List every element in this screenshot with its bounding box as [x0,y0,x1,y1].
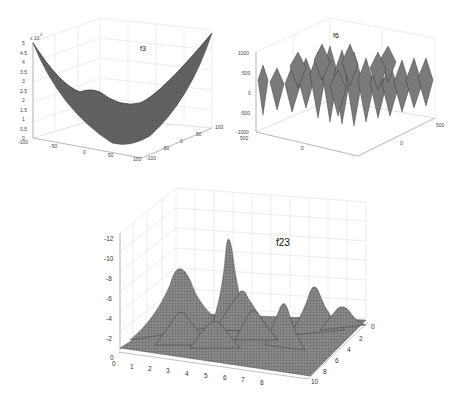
svg-text:6: 6 [335,357,339,364]
svg-text:-500: -500 [240,110,250,116]
svg-text:-100: -100 [18,139,28,145]
f23-surface-canvas: -12 -10 -8 -6 -4 -2 0 0 1 2 3 4 5 6 7 8 … [100,180,420,396]
svg-text:0: 0 [301,145,304,151]
svg-text:8: 8 [260,379,264,386]
svg-text:-4: -4 [106,315,112,322]
svg-text:5: 5 [22,40,25,46]
svg-text:100: 100 [215,124,224,130]
svg-text:5: 5 [204,372,208,379]
svg-text:3.5: 3.5 [20,69,27,75]
f3-surface-canvas: 5 4.5 4 3.5 3 2.5 2 1.5 1 0.5 0 x 10 4 -… [0,0,230,170]
svg-text:0: 0 [83,149,86,155]
f3-exponent-label: x 10 [30,35,40,41]
svg-text:2: 2 [148,365,152,372]
svg-text:2: 2 [359,335,363,342]
f6-surface-canvas: 1000 500 0 -500 -1000 500 0 0 500 [230,0,460,170]
svg-text:100: 100 [133,156,142,162]
f23-z-tick-labels: -12 -10 -8 -6 -4 -2 0 [104,235,114,361]
f6-y-tick-labels: 0 500 [400,122,445,146]
f23-title: f23 [276,237,290,248]
svg-text:0.5: 0.5 [20,126,27,132]
f6-title: f6 [333,32,339,39]
svg-text:0: 0 [400,140,403,146]
plot-f6: 1000 500 0 -500 -1000 500 0 0 500 f6 [230,0,460,170]
svg-text:50: 50 [108,152,114,158]
svg-text:4: 4 [22,59,25,65]
svg-text:1: 1 [22,116,25,122]
svg-text:7: 7 [241,376,245,383]
f3-title: f3 [140,45,146,52]
svg-text:-50: -50 [50,143,57,149]
svg-text:500: 500 [240,135,249,141]
svg-text:2.5: 2.5 [20,88,27,94]
plot-f3: 5 4.5 4 3.5 3 2.5 2 1.5 1 0.5 0 x 10 4 -… [0,0,230,170]
svg-text:-8: -8 [106,275,112,282]
svg-text:3: 3 [166,367,170,374]
svg-text:500: 500 [436,122,445,128]
svg-text:10: 10 [311,378,319,385]
f6-z-tick-labels: 1000 500 0 -500 -1000 [236,50,251,135]
svg-text:1.5: 1.5 [20,107,27,113]
svg-text:1: 1 [130,363,134,370]
svg-text:4: 4 [347,346,351,353]
svg-text:-10: -10 [104,255,114,262]
svg-text:8: 8 [323,368,327,375]
svg-text:-100: -100 [146,155,156,161]
svg-text:0: 0 [180,138,183,144]
svg-text:0: 0 [112,360,116,367]
svg-text:6: 6 [223,374,227,381]
svg-text:3: 3 [22,78,25,84]
svg-text:1000: 1000 [238,50,249,56]
svg-text:500: 500 [242,70,251,76]
svg-text:0: 0 [248,90,251,96]
svg-text:-12: -12 [104,235,114,242]
svg-text:50: 50 [196,131,202,137]
svg-text:0: 0 [371,323,375,330]
svg-text:4.5: 4.5 [20,50,27,56]
f6-surface [258,44,433,126]
svg-text:-6: -6 [106,295,112,302]
svg-text:-2: -2 [106,335,112,342]
f3-z-tick-labels: 5 4.5 4 3.5 3 2.5 2 1.5 1 0.5 0 [20,40,27,141]
svg-text:-50: -50 [162,145,169,151]
f3-exponent-sup: 4 [40,32,43,37]
plot-f23: -12 -10 -8 -6 -4 -2 0 0 1 2 3 4 5 6 7 8 … [100,180,420,396]
f6-x-tick-labels: 500 0 [240,135,304,151]
svg-text:2: 2 [22,97,25,103]
f3-y-tick-labels: -100 -50 0 50 100 [146,124,224,161]
svg-text:4: 4 [185,370,189,377]
